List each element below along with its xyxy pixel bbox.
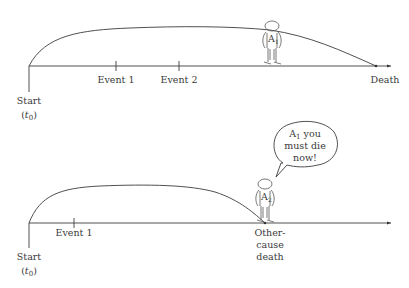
figure-a1-icon: A1 [263, 21, 281, 64]
top-event2-label: Event 2 [161, 74, 198, 85]
top-start-label: Start [17, 95, 42, 106]
top-start-time-label: (t0) [21, 109, 37, 122]
bottom-event1-label: Event 1 [56, 227, 93, 238]
bottom-other-cause-label-2: cause [256, 239, 284, 250]
bottom-other-cause-label-3: death [256, 251, 283, 262]
bottom-survival-curve [29, 185, 265, 223]
bottom-start-label: Start [17, 251, 42, 262]
bottom-death-point [264, 222, 267, 225]
top-survival-curve [29, 27, 376, 66]
speech-line-3: now! [293, 152, 317, 163]
bottom-start-time-label: (t0) [21, 265, 37, 278]
speech-line-2: must die [284, 140, 326, 151]
bottom-panel: Start (t0) Event 1 Other- cause death A2… [17, 121, 391, 278]
bottom-other-cause-label-1: Other- [254, 227, 285, 238]
speech-bubble: A1 you must die now! [274, 121, 337, 177]
top-death-point [375, 65, 378, 68]
top-panel: Start (t0) Event 1 Event 2 Death A1 [17, 21, 400, 122]
figure-a2-icon: A2 [256, 179, 274, 222]
competing-risks-diagram: Start (t0) Event 1 Event 2 Death A1 Star… [0, 0, 409, 288]
top-death-label: Death [371, 74, 400, 85]
top-event1-label: Event 1 [98, 74, 135, 85]
